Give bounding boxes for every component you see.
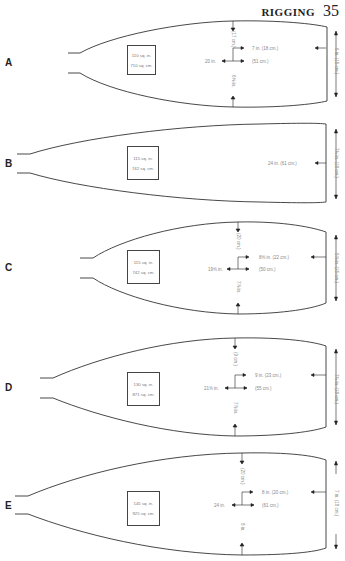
width-label: 8⅝ in. (22 cm.) [259,255,289,260]
area-sq-in: 115 sq. in. [133,156,153,161]
area-box: 115 sq. in. 742 sq. cm. [127,146,159,180]
length-cm-label: (55 cm.) [255,386,272,391]
length-cm-label: (50 cm.) [259,267,276,272]
top-offset-label: (9 cm.) [233,352,238,366]
blade-letter: C [5,262,12,273]
length-label: 24 in. (61 cm.) [268,161,297,166]
area-sq-in: 130 sq. in. [134,382,154,387]
area-sq-cm: 742 sq. cm. [132,270,154,275]
tip-height-label: 7¼ in. (18 cm.) [334,374,339,404]
area-sq-cm: 710 sq. cm. [130,63,152,68]
area-sq-cm: 925 sq. cm. [132,511,154,516]
tip-height-label: 7 in. (18 cm.) [334,490,339,516]
top-offset-label: (20 cm.) [236,233,241,250]
area-sq-in: 115 sq. in. [134,260,154,265]
blade-c-outline [0,218,345,318]
bottom-offset-label: 6⅝ in. [231,75,236,87]
width-label: 7 in. (18 cm.) [252,46,278,51]
blade-a: A 110 sq. in. 710 sq. cm. (17 cm.) 7 in.… [0,18,345,110]
bottom-offset-label: 7⅞ in. [236,281,241,293]
running-head: RIGGING [261,6,315,18]
tip-height-label: 5⅞ in. (15 cm.) [334,253,339,283]
blade-c: C 115 sq. in. 742 sq. cm. (20 cm.) 8⅝ in… [0,218,345,318]
top-offset-label: (17 cm.) [231,31,236,48]
length-in-label: 19⅝ in. [208,267,223,272]
length-in-label: 20 in. [205,59,216,64]
area-sq-in: 110 sq. in. [132,53,152,58]
area-box: 110 sq. in. 710 sq. cm. [127,45,156,75]
blade-letter: A [5,57,12,68]
blade-letter: D [5,382,12,393]
blade-b: B 115 sq. in. 742 sq. cm. 24 in. (61 cm.… [0,118,345,208]
length-in-label: 21⅝ in. [204,386,219,391]
page-number: 35 [323,2,339,19]
blade-a-outline [0,18,345,110]
area-box: 115 sq. in. 742 sq. cm. [127,250,160,284]
area-sq-in: 145 sq. in. [134,501,154,506]
tip-height-label: 6 in. (15 cm.) [334,48,339,74]
area-box: 145 sq. in. 925 sq. cm. [127,491,160,526]
area-sq-cm: 742 sq. cm. [132,166,154,171]
bottom-offset-label: 8 in. [240,523,245,532]
bottom-offset-label: 7⅞ in. [233,402,238,414]
area-box: 130 sq. in. 871 sq. cm. [127,372,160,406]
blade-letter: E [5,500,12,511]
blade-d-outline [0,332,345,440]
blade-d: D 130 sq. in. 871 sq. cm. (9 cm.) 9 in. … [0,332,345,440]
blade-letter: B [5,158,12,169]
width-label: 8 in. (20 cm.) [262,490,288,495]
blade-e: E 145 sq. in. 925 sq. cm. (20 cm.) 8 in.… [0,444,345,561]
length-cm-label: (51 cm.) [252,59,269,64]
top-offset-label: (20 cm.) [240,468,245,485]
length-in-label: 24 in. [214,503,225,508]
width-label: 9 in. (23 cm.) [255,373,281,378]
area-sq-cm: 871 sq. cm. [132,392,154,397]
length-cm-label: (61 cm.) [262,503,279,508]
tip-height-label: 7¼ in. (18 cm.) [334,148,339,178]
blade-e-outline [0,444,345,561]
